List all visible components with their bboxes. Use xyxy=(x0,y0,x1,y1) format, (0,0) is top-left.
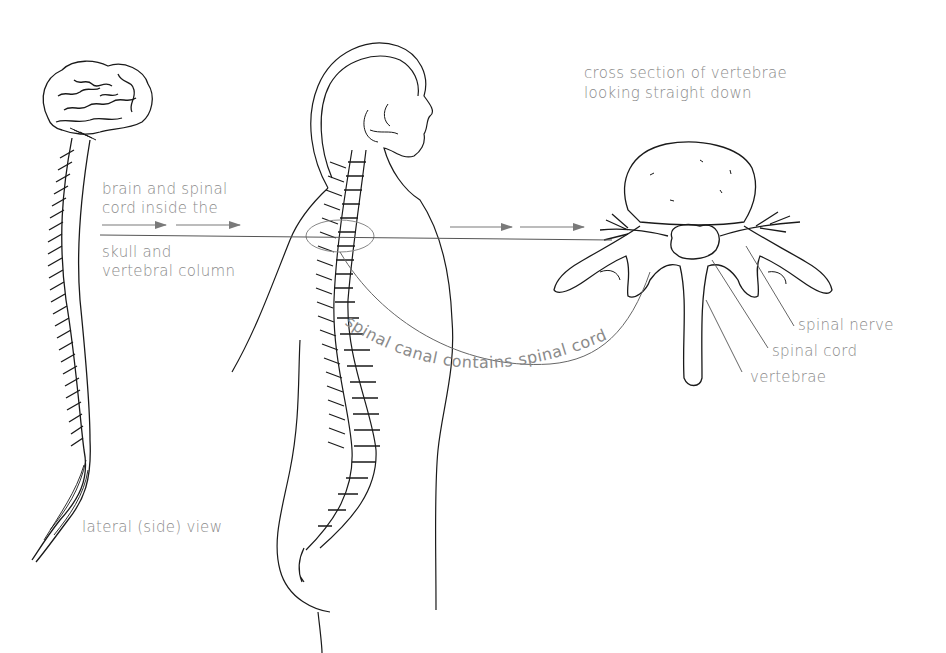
leader-spinal-cord xyxy=(712,260,768,348)
callout-vertebrae: vertebrae xyxy=(750,368,826,387)
arc-label: spinal canal contains spinal cord xyxy=(342,311,610,372)
callout-spinal-nerve: spinal nerve xyxy=(798,316,894,335)
left-caption-line4: vertebral column xyxy=(102,262,235,281)
leader-vertebrae xyxy=(706,300,742,372)
lamina-and-pedicles xyxy=(554,226,832,386)
cross-section-highlight xyxy=(306,220,374,252)
brain-icon xyxy=(43,61,152,140)
cross-section-title-line2: looking straight down xyxy=(584,84,752,103)
left-caption-line3: skull and xyxy=(102,243,172,262)
leader-spinal-nerve xyxy=(746,246,794,326)
callout-spinal-cord: spinal cord xyxy=(772,342,857,361)
lateral-view-caption: lateral (side) view xyxy=(82,518,222,537)
vertebral-body xyxy=(625,142,756,225)
cross-section-title-line1: cross section of vertebrae xyxy=(584,64,787,83)
spinal-nerve-left xyxy=(600,214,668,240)
cross-section-reference-line xyxy=(100,235,612,240)
body-outline xyxy=(311,43,453,610)
spinal-cord-section xyxy=(671,225,719,259)
spinal-cord-icon xyxy=(32,138,90,562)
back-and-hip-outline xyxy=(232,188,328,372)
left-caption-line1: brain and spinal xyxy=(102,180,227,199)
brain-spinal-cord-figure xyxy=(32,61,152,562)
left-caption-line2: cord inside the xyxy=(102,199,218,218)
head-inner-outline xyxy=(321,56,418,178)
vertebral-column-icon xyxy=(299,150,380,582)
connectors xyxy=(100,225,794,372)
